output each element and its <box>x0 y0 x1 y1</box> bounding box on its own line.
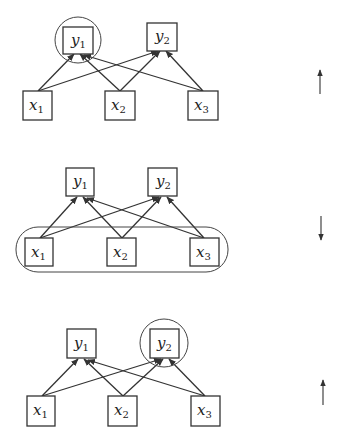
node-y1: y1 <box>67 329 96 358</box>
node-x2: x2 <box>107 238 136 266</box>
edges <box>40 197 204 238</box>
node-y2: y2 <box>147 23 177 51</box>
panel-bottom: y1 y2 x1 x2 x3 <box>27 319 323 426</box>
node-x1: x1 <box>27 396 55 426</box>
panel-middle: y1 y2 x1 x2 x3 <box>16 168 321 272</box>
node-x1: x1 <box>23 91 52 120</box>
node-y2: y2 <box>148 168 177 196</box>
node-y1: y1 <box>66 168 94 196</box>
node-x2: x2 <box>108 396 137 426</box>
edges <box>42 359 205 396</box>
panel-top: y1 y2 x1 x2 x3 <box>23 17 320 120</box>
node-x3: x3 <box>190 238 219 266</box>
node-x3: x3 <box>191 396 220 426</box>
node-y1: y1 <box>63 27 93 54</box>
node-y2: y2 <box>150 329 179 358</box>
node-x1: x1 <box>25 238 53 266</box>
diagram-canvas: y1 y2 x1 x2 x3 <box>0 0 340 439</box>
node-x3: x3 <box>188 91 218 120</box>
node-x2: x2 <box>105 91 135 120</box>
